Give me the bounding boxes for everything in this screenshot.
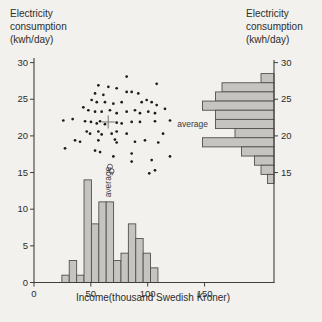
scatter-point [150,159,153,162]
income-histogram-bar [69,261,76,283]
consumption-histogram-bar [261,165,274,174]
scatter-point [154,169,157,172]
scatter-point [150,101,153,104]
left-y-tick-label: 30 [17,57,28,68]
left-axis-title-line2: consumption [10,21,67,32]
scatter-point [139,121,142,124]
consumption-average-label: average [177,119,208,129]
scatter-point [90,121,93,124]
income-histogram-bar [77,275,84,282]
income-histogram-bar [143,253,150,282]
scatter-point [115,87,118,90]
scatter-point [125,132,128,135]
scatter-point [115,121,118,124]
income-histogram-bar [121,253,128,282]
x-tick-label: 50 [86,288,97,299]
consumption-histogram-bar [255,156,275,165]
scatter-point [62,119,65,122]
scatter-point [97,84,100,87]
scatter-point [64,147,67,150]
scatter-point [169,155,172,158]
scatter-point [112,155,115,158]
left-y-tick-label: 20 [17,130,28,141]
x-tick-label: 0 [31,288,36,299]
income-histogram-bar [106,202,113,283]
scatter-point [115,112,118,115]
scatter-point [125,75,128,78]
scatter-point [130,160,133,163]
scatter-point [112,102,115,105]
scatter-point [137,92,140,95]
income-histogram-bar [84,180,91,283]
scatter-average-label: average [103,166,113,197]
consumption-histogram-bar [216,110,275,119]
scatter-point [102,94,105,97]
scatter-point [94,149,97,152]
scatter-point [114,138,117,141]
scatter-point [94,110,97,113]
income-histogram-bar [114,261,121,283]
scatter-point [95,101,98,104]
scatter-point [130,91,133,94]
left-y-tick-label: 25 [17,93,28,104]
scatter-point [107,85,110,88]
scatter-point [109,109,112,112]
right-axis-title-line1: Electricity [246,8,289,19]
consumption-histogram-bar [222,83,274,92]
scatter-point [104,123,107,126]
left-y-tick-label: 10 [17,203,28,214]
consumption-histogram-bar [268,174,275,183]
consumption-histogram-bar [203,101,275,110]
consumption-histogram-bar [261,74,274,83]
scatter-point [162,132,165,135]
scatter-point [147,110,150,113]
scatter-point [125,91,128,94]
scatter-point [130,121,133,124]
consumption-histogram-bar [216,119,275,128]
left-y-tick-label: 15 [17,167,28,178]
scatter-point [144,139,147,142]
right-axis-title-line2: consumption [246,21,303,32]
right-y-tick-label: 20 [281,130,292,141]
right-y-tick-label: 30 [281,57,292,68]
x-tick-label: 100 [140,288,156,299]
scatter-point [134,140,137,143]
scatter-point [97,139,100,142]
scatter-point [120,122,123,125]
scatter-point [130,152,133,155]
scatter-point [90,99,93,102]
scatter-point [169,119,172,122]
scatter-point [99,151,102,154]
chart-canvas: Electricity consumption (kwh/day) Electr… [0,0,322,322]
scatter-point [155,104,158,107]
scatter-point [148,172,151,175]
consumption-histogram-bar [203,138,275,147]
income-histogram-bar [62,275,69,282]
scatter-point [115,141,118,144]
left-y-tick-label: 0 [23,277,28,288]
scatter-point [74,139,77,142]
scatter-point [95,122,98,125]
scatter-point [82,106,85,109]
scatter-point [134,109,137,112]
scatter-point [97,130,100,133]
consumption-histogram-bar [216,92,275,101]
scatter-point [115,130,118,133]
scatter-point [154,120,157,123]
scatter-point [99,120,102,123]
scatter-point [94,92,97,95]
scatter-point [155,83,158,86]
income-histogram-bar [151,268,158,283]
income-histogram-bar [128,224,135,283]
histogram-bars-layer [62,74,274,283]
consumption-histogram-bar [242,147,275,156]
scatter-point [85,130,88,133]
scatter-point [145,99,148,102]
scatter-point [87,109,90,112]
scatter-point [125,110,128,113]
scatter-point [104,101,107,104]
x-tick-label: 150 [197,288,213,299]
income-histogram-bar [99,202,106,283]
right-y-tick-label: 25 [281,93,292,104]
scatter-point [120,101,123,104]
